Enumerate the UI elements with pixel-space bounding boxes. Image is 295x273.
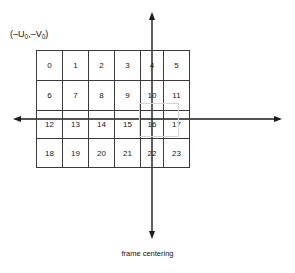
macroblock-cell: 9 (115, 81, 141, 111)
offset-v-symbol: V (36, 29, 42, 39)
macroblock-cell: 23 (164, 139, 190, 168)
macroblock-cell: 3 (115, 51, 141, 81)
offset-u-subscript: 0 (25, 33, 29, 40)
frame-centering-figure: (–U0,–V0) 0 1 2 3 4 5 6 7 8 9 10 11 12 1… (0, 0, 295, 273)
macroblock-cell: 0 (37, 51, 63, 81)
macroblock-cell: 18 (37, 139, 63, 168)
macroblock-cell: 1 (63, 51, 89, 81)
vertical-axis-arrow-up (149, 12, 155, 20)
macroblock-cell: 4 (141, 51, 164, 81)
macroblock-cell: 14 (89, 111, 115, 139)
macroblock-cell: 6 (37, 81, 63, 111)
macroblock-cell: 12 (37, 111, 63, 139)
horizontal-axis-arrow-right (274, 116, 282, 122)
macroblock-cell: 13 (63, 111, 89, 139)
offset-v-subscript: 0 (42, 33, 46, 40)
horizontal-axis-arrow-left (13, 116, 21, 122)
macroblock-cell: 11 (164, 81, 190, 111)
macroblock-cell: 19 (63, 139, 89, 168)
vertical-axis-arrow-down (149, 231, 155, 239)
macroblock-cell: 22 (141, 139, 164, 168)
figure-caption: frame centering (0, 249, 295, 258)
macroblock-cell: 21 (115, 139, 141, 168)
macroblock-cell: 2 (89, 51, 115, 81)
macroblock-cell: 15 (115, 111, 141, 139)
offset-u-symbol: U (18, 29, 25, 39)
offset-close-paren: ) (45, 29, 48, 39)
macroblock-cell: 17 (164, 111, 190, 139)
macroblock-cell: 8 (89, 81, 115, 111)
macroblock-grid: 0 1 2 3 4 5 6 7 8 9 10 11 12 13 14 15 16… (36, 50, 190, 168)
macroblock-cell: 10 (141, 81, 164, 111)
macroblock-cell: 20 (89, 139, 115, 168)
origin-offset-label: (–U0,–V0) (10, 29, 48, 40)
macroblock-cell: 5 (164, 51, 190, 81)
macroblock-cell: 16 (141, 111, 164, 139)
macroblock-cell: 7 (63, 81, 89, 111)
